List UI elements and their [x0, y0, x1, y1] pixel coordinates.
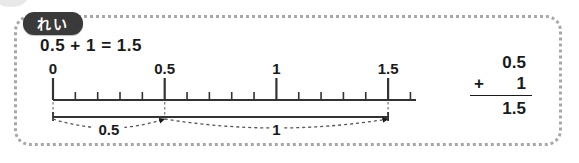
example-badge-label: れい	[37, 17, 69, 31]
tick-label: 0.5	[154, 60, 175, 77]
tick-label: 1.5	[378, 60, 399, 77]
tick-label: 1	[272, 60, 280, 77]
tick-label: 0	[49, 60, 57, 77]
number-line-arc-labels: 0.51	[98, 121, 280, 138]
arc-label: 1	[272, 121, 280, 138]
number-line-major-ticks	[53, 78, 388, 100]
number-line-minor-ticks	[75, 92, 410, 100]
number-line-span-bar	[53, 112, 388, 121]
number-line-tick-labels: 00.511.5	[49, 60, 399, 77]
vertical-total: 1.5	[470, 98, 532, 119]
arc-label: 0.5	[98, 121, 119, 138]
vertical-addend-1: 0.5	[470, 52, 532, 73]
vertical-addend-2-row: + 1	[470, 73, 532, 94]
vertical-addition: 0.5 + 1 1.5	[470, 52, 532, 119]
vertical-sum-rule	[470, 95, 532, 96]
number-line-guide-lines	[53, 102, 388, 117]
vertical-operator: +	[474, 73, 484, 94]
vertical-addend-2: 1	[517, 74, 526, 93]
equation-text: 0.5 + 1 = 1.5	[40, 36, 142, 56]
example-badge: れい	[23, 12, 83, 35]
